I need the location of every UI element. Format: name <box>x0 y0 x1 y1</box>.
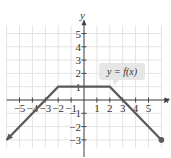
y-tick-label: 5 <box>76 28 82 40</box>
x-tick-label: −5 <box>14 102 26 114</box>
x-axis-label: x <box>163 93 169 105</box>
callout-pointer <box>113 80 119 86</box>
function-label: y = f(x) <box>106 66 138 78</box>
y-tick-label: 2 <box>76 67 82 79</box>
x-tick-label: 1 <box>94 102 100 114</box>
x-tick-label: 5 <box>146 102 152 114</box>
x-tick-label: −2 <box>52 102 64 114</box>
y-tick-label: −3 <box>69 134 81 146</box>
y-tick-label: −1 <box>69 107 81 119</box>
y-tick-label: 4 <box>76 41 82 53</box>
function-graph: −5−4−3−2−112345−3−2−112345 y = f(x) y x <box>0 0 171 158</box>
y-axis-label: y <box>79 9 85 21</box>
right-endpoint-dot <box>159 137 165 143</box>
y-tick-label: 3 <box>76 54 82 66</box>
axes <box>7 19 171 157</box>
function-label-callout: y = f(x) <box>99 63 145 86</box>
y-tick-label: −2 <box>69 121 81 133</box>
function-line <box>6 87 164 143</box>
x-tick-label: 2 <box>107 102 113 114</box>
